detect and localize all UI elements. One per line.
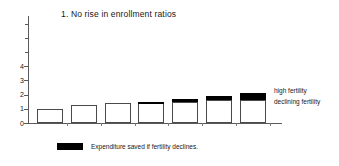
y-axis-tick <box>24 95 28 96</box>
x-axis-tick <box>67 123 68 126</box>
chart-legend: Expenditure saved if fertility declines. <box>57 143 198 150</box>
bar-declining-fertility <box>37 109 63 123</box>
x-axis-tick <box>236 123 237 126</box>
bar-declining-fertility <box>71 105 97 123</box>
x-axis-tick <box>270 123 271 126</box>
y-axis-line <box>28 16 29 123</box>
y-axis-tick <box>25 38 28 39</box>
legend-swatch-expenditure-saved <box>57 143 83 150</box>
chart-title: 1. No rise in enrollment ratios <box>61 9 176 19</box>
bar-expenditure-saved <box>172 99 198 102</box>
x-axis-tick <box>135 123 136 126</box>
bar-declining-fertility <box>172 102 198 123</box>
y-axis-label: 1 <box>13 105 24 112</box>
y-axis-tick <box>24 123 28 124</box>
bar-declining-fertility <box>105 103 131 123</box>
chart-container: 1. No rise in enrollment ratios 01234 hi… <box>0 0 339 166</box>
y-axis-label: 4 <box>13 63 24 70</box>
annotation-declining-fertility: declining fertility <box>274 98 320 106</box>
y-axis-label: 3 <box>13 77 24 84</box>
y-axis-tick <box>24 66 28 67</box>
y-axis-tick <box>24 109 28 110</box>
x-axis-tick <box>202 123 203 126</box>
legend-label-expenditure-saved: Expenditure saved if fertility declines. <box>91 143 198 150</box>
bar-declining-fertility <box>240 100 266 123</box>
bar-declining-fertility <box>138 103 164 123</box>
bar-declining-fertility <box>206 100 232 123</box>
bar-expenditure-saved <box>206 96 232 100</box>
y-axis-tick <box>25 52 28 53</box>
y-axis-label: 2 <box>13 91 24 98</box>
x-axis-tick <box>101 123 102 126</box>
annotation-high-fertility: high fertility <box>274 87 307 95</box>
y-axis-tick <box>25 24 28 25</box>
y-axis-tick <box>24 80 28 81</box>
x-axis-tick <box>168 123 169 126</box>
bar-expenditure-saved <box>138 102 164 104</box>
bar-expenditure-saved <box>240 93 266 100</box>
y-axis-label: 0 <box>13 120 24 127</box>
